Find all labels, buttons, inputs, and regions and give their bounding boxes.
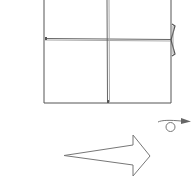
paper-square-grid	[44, 0, 171, 103]
next-step-arrow-icon	[64, 135, 150, 176]
origami-diagram	[0, 0, 193, 177]
side-flap	[171, 24, 175, 56]
turn-over-icon	[158, 118, 191, 132]
